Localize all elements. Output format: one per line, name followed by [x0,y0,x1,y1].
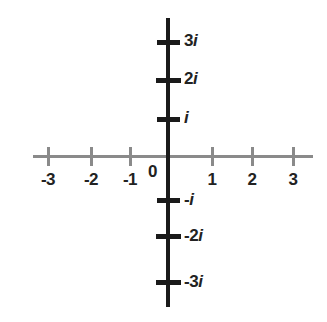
real-tick-label-2: 2 [232,170,272,190]
imaginary-tick-mark [157,117,180,122]
imaginary-tick-mark [157,40,180,45]
imaginary-label-number: 3 [189,272,198,291]
imaginary-tick-label-neg-2i: -2i [184,226,202,246]
origin-label: 0 [148,162,157,182]
imaginary-tick-label-i: i [184,108,188,128]
real-tick-label-neg3: -3 [28,170,68,190]
imaginary-unit-glyph: i [193,69,197,88]
real-axis-line [33,155,313,158]
real-tick-mark [129,147,132,166]
imaginary-tick-mark [156,280,181,285]
real-tick-mark [90,147,93,166]
imaginary-axis-line [166,18,170,307]
imaginary-tick-label-2i: 2i [184,69,197,89]
real-tick-mark [47,147,50,166]
real-tick-mark [292,147,295,166]
real-tick-label-1: 1 [192,170,232,190]
real-tick-label-neg1: -1 [110,170,150,190]
complex-plane-figure: -3 -2 -1 1 2 3 3i 2i i -i -2i -3i [0,0,327,322]
imaginary-unit-glyph: i [198,272,202,291]
imaginary-label-number: 3 [184,31,193,50]
imaginary-label-number: 2 [184,69,193,88]
imaginary-tick-label-neg-3i: -3i [184,272,202,292]
imaginary-unit-glyph: i [184,108,188,127]
imaginary-unit-glyph: i [189,190,193,209]
imaginary-tick-label-3i: 3i [184,31,197,51]
imaginary-tick-mark [157,198,180,203]
imaginary-unit-glyph: i [193,31,197,50]
real-tick-mark [211,147,214,166]
imaginary-unit-glyph: i [198,226,202,245]
imaginary-tick-mark [156,78,181,83]
real-tick-label-neg2: -2 [71,170,111,190]
imaginary-tick-mark [156,234,181,239]
imaginary-label-number: 2 [189,226,198,245]
imaginary-tick-label-neg-i: -i [184,190,193,210]
real-tick-mark [251,147,254,166]
real-tick-label-3: 3 [273,170,313,190]
